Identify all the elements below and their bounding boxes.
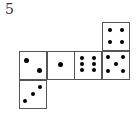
- die-face-middle-3: [74, 51, 102, 80]
- pip-dot: [92, 56, 96, 60]
- pip-dot: [38, 85, 42, 89]
- die-face-middle-4: [102, 51, 130, 80]
- pip-dot: [106, 69, 110, 73]
- die-face-top: [102, 22, 130, 51]
- pip-dot: [106, 55, 110, 59]
- pip-dot: [120, 40, 124, 44]
- die-face-bottom: [19, 80, 47, 109]
- pip-dot: [114, 62, 118, 66]
- pip-dot: [108, 28, 112, 32]
- pip-dot: [58, 62, 63, 67]
- pip-dot: [23, 99, 27, 103]
- die-face-middle-1: [19, 51, 47, 80]
- pip-dot: [37, 68, 42, 73]
- pip-dot: [80, 62, 84, 66]
- pip-dot: [121, 69, 125, 73]
- pip-dot: [80, 56, 84, 60]
- pip-dot: [92, 68, 96, 72]
- pip-dot: [24, 58, 29, 63]
- pip-dot: [120, 28, 124, 32]
- pip-dot: [80, 68, 84, 72]
- pip-dot: [108, 40, 112, 44]
- pip-dot: [121, 55, 125, 59]
- pip-dot: [31, 92, 35, 96]
- pip-dot: [92, 62, 96, 66]
- die-face-middle-2: [47, 51, 75, 80]
- problem-number: 5: [5, 1, 14, 17]
